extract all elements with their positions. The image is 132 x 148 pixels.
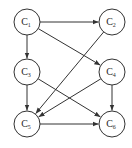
node-label-subscript: 4 (113, 72, 116, 78)
node-c4: C4 (99, 59, 125, 85)
node-c5: C5 (14, 111, 40, 137)
graph-canvas: C1C2C3C4C5C6 (0, 0, 132, 148)
node-c6: C6 (99, 111, 125, 137)
node-c1: C1 (14, 9, 40, 35)
dependency-graph: C1C2C3C4C5C6 (0, 0, 132, 148)
node-c3: C3 (14, 59, 40, 85)
node-label-subscript: 2 (113, 22, 116, 28)
node-label-subscript: 5 (28, 124, 31, 130)
edge-c2-to-c5 (36, 32, 104, 114)
node-c2: C2 (99, 9, 125, 35)
node-label-subscript: 3 (28, 72, 31, 78)
node-label-subscript: 6 (113, 124, 116, 130)
node-label-subscript: 1 (28, 22, 31, 28)
